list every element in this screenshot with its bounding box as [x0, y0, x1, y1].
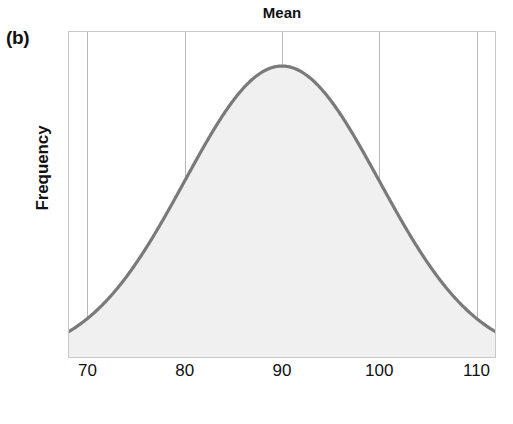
figure-panel-b: (b) Mean Frequency 708090100110	[0, 0, 513, 424]
plot-area	[68, 31, 496, 358]
x-tick-label-80: 80	[155, 361, 215, 381]
x-tick-label-70: 70	[57, 361, 117, 381]
chart-title: Mean	[68, 4, 496, 21]
y-axis-title: Frequency	[33, 93, 53, 243]
x-tick-label-100: 100	[349, 361, 409, 381]
x-tick-label-90: 90	[252, 361, 312, 381]
curve-fill-area	[68, 66, 496, 358]
x-tick-label-110: 110	[447, 361, 507, 381]
panel-label: (b)	[6, 28, 29, 47]
distribution-curve-svg	[68, 31, 496, 358]
